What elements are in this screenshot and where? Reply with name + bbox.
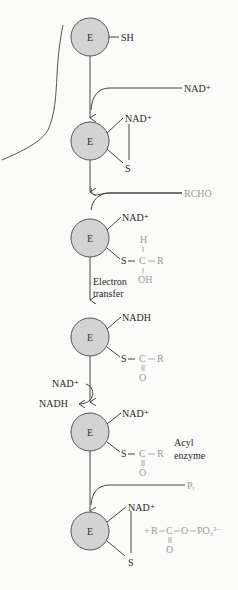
acyl-enzyme-label-line2: enzyme (174, 450, 206, 461)
carbon-label: C (139, 353, 146, 364)
rcho-input-label: RCHO (184, 188, 212, 199)
r-group-label: R (157, 448, 164, 459)
carbon-label: C (139, 255, 146, 266)
product-phosphate-label: PO₃²⁻ (197, 525, 222, 536)
state-thiohemiacetal: E NAD⁺ S H C R OH (71, 212, 164, 285)
enzyme-label: E (87, 136, 93, 147)
sulfur-label: S (128, 557, 134, 568)
phosphate-input-label: Pᵢ (187, 480, 195, 491)
electron-transfer-label-line1: Electron (93, 276, 127, 287)
sulfur-label: S (125, 163, 131, 174)
nad-exchange-arrow (79, 384, 93, 404)
sulfur-label: S (121, 448, 127, 459)
exchange-nadh-out-label: NADH (39, 398, 68, 409)
exchange-nad-in-label: NAD⁺ (52, 378, 79, 389)
nad-input-arrow (91, 88, 182, 110)
enzyme-label: E (87, 526, 93, 537)
cofactor-label: NADH (122, 312, 151, 323)
sulfur-label: S (121, 255, 127, 266)
plus-sign: + (144, 525, 150, 536)
carbonyl-oxygen-label: O (139, 467, 146, 478)
cofactor-label: NAD⁺ (122, 408, 149, 419)
enzyme-label: E (87, 32, 93, 43)
state-regenerated: E NAD⁺ S (71, 502, 155, 568)
enzyme-label: E (87, 233, 93, 244)
nad-input-label: NAD⁺ (184, 83, 211, 94)
hydrogen-label: H (140, 234, 147, 245)
sulfur-label: S (121, 353, 127, 364)
acyl-phosphate-product: + R C O PO₃²⁻ O (144, 525, 222, 555)
state-acyl-enzyme: E NAD⁺ S C R O (71, 408, 164, 478)
electron-transfer-label-line2: transfer (93, 288, 124, 299)
carbonyl-oxygen-label: O (139, 372, 146, 383)
product-r-label: R (151, 525, 158, 536)
r-group-label: R (157, 353, 164, 364)
cofactor-label: NAD⁺ (128, 502, 155, 513)
product-carbonyl-oxygen-label: O (166, 544, 173, 555)
cofactor-label: NAD⁺ (122, 212, 149, 223)
product-carbon-label: C (166, 525, 173, 536)
enzyme-label: E (87, 427, 93, 438)
acyl-enzyme-label-line1: Acyl (174, 437, 194, 448)
hydroxyl-label: OH (138, 274, 152, 285)
margin-pencil-line (2, 25, 63, 160)
state-free-enzyme: E SH (71, 18, 134, 56)
product-oxygen-label: O (181, 525, 188, 536)
state-thioester-nadh: E NADH S C R O (71, 312, 164, 383)
rcho-curve (91, 193, 182, 210)
thiol-group: SH (121, 32, 134, 43)
r-group-label: R (157, 255, 164, 266)
state-nad-bound: E NAD⁺ S (71, 113, 152, 174)
cofactor-label: NAD⁺ (125, 113, 152, 124)
glyceraldehyde-3-phosphate-dehydrogenase-mechanism: E SH NAD⁺ E NAD⁺ S RCHO E NAD⁺ S H C R O… (0, 0, 238, 590)
carbon-label: C (139, 448, 146, 459)
enzyme-label: E (87, 332, 93, 343)
